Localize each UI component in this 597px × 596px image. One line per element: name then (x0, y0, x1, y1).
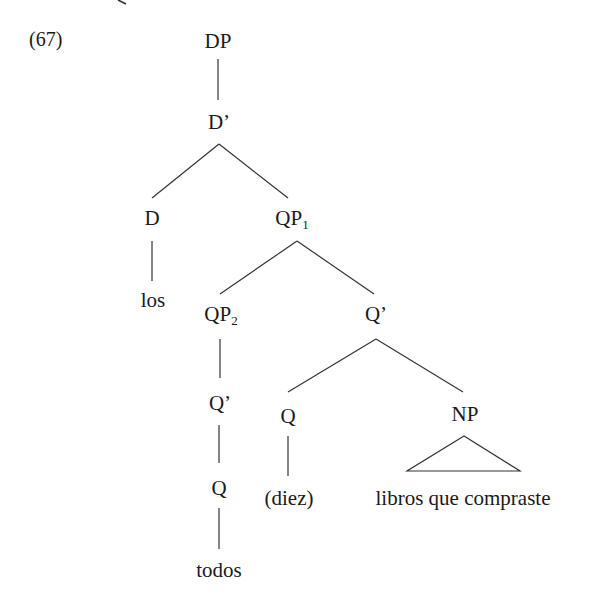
node-dp-label: DP (205, 29, 232, 53)
node-d-bar: D’ (208, 112, 230, 133)
node-q-bar-left: Q’ (209, 393, 231, 414)
node-d-label: D (144, 206, 159, 230)
node-diez-label: (diez) (265, 486, 314, 510)
edge-qbar-right-q (288, 339, 376, 392)
node-qp1-label: QP (275, 206, 302, 230)
node-los-label: los (141, 288, 166, 312)
node-qp2-label: QP (204, 302, 231, 326)
node-np-content-label: libros que compraste (376, 486, 551, 510)
node-los: los (141, 290, 166, 311)
node-q-mid: Q (280, 406, 295, 427)
np-triangle (407, 436, 520, 471)
cropped-glyph-fragment (118, 0, 126, 4)
node-dp: DP (205, 31, 232, 52)
example-number: (67) (29, 29, 62, 49)
node-np-content: libros que compraste (376, 488, 551, 509)
node-q-bar-right-label: Q’ (365, 302, 387, 326)
node-qp1: QP1 (275, 208, 308, 229)
node-diez: (diez) (265, 488, 314, 509)
edge-dbar-d (152, 144, 219, 198)
edge-qbar-right-np (376, 339, 463, 392)
node-todos: todos (196, 560, 242, 581)
edge-dbar-qp1 (219, 144, 288, 198)
node-d-bar-label: D’ (208, 110, 230, 134)
node-qp1-subscript: 1 (302, 217, 309, 232)
node-q-bar-right: Q’ (365, 304, 387, 325)
node-q-bar-left-label: Q’ (209, 391, 231, 415)
node-q-left: Q (211, 478, 226, 499)
node-qp2: QP2 (204, 304, 237, 325)
edge-qp1-qbar (297, 241, 374, 294)
node-q-left-label: Q (211, 476, 226, 500)
node-qp2-subscript: 2 (231, 313, 238, 328)
node-todos-label: todos (196, 558, 242, 582)
edge-qp1-qp2 (220, 241, 297, 294)
node-d: D (144, 208, 159, 229)
node-np: NP (452, 404, 479, 425)
node-np-label: NP (452, 402, 479, 426)
node-q-mid-label: Q (280, 404, 295, 428)
